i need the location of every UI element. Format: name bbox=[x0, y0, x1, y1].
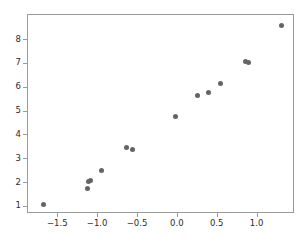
x-tick-mark bbox=[257, 213, 258, 217]
scatter-point bbox=[130, 147, 135, 152]
plot-data-area bbox=[28, 15, 293, 212]
x-tick-mark bbox=[97, 213, 98, 217]
x-tick-label: 0.0 bbox=[157, 219, 197, 228]
y-tick-label: 1 bbox=[0, 201, 21, 210]
scatter-point bbox=[206, 90, 211, 95]
y-tick-label: 6 bbox=[0, 82, 21, 91]
y-tick-label: 7 bbox=[0, 58, 21, 67]
x-tick-label: −0.5 bbox=[117, 219, 157, 228]
y-tick-label-box: 4 bbox=[0, 130, 21, 139]
scatter-point bbox=[218, 81, 223, 86]
plot-axes-frame bbox=[27, 14, 294, 213]
y-tick-label-box: 5 bbox=[0, 106, 21, 115]
scatter-point bbox=[124, 145, 129, 150]
x-tick-label: −1.5 bbox=[37, 219, 77, 228]
y-tick-label: 4 bbox=[0, 130, 21, 139]
scatter-point bbox=[195, 93, 200, 98]
y-tick-label: 3 bbox=[0, 154, 21, 163]
x-tick-label: −1.0 bbox=[77, 219, 117, 228]
y-tick-label-box: 3 bbox=[0, 154, 21, 163]
scatter-point bbox=[279, 23, 284, 28]
scatter-point bbox=[41, 202, 46, 207]
y-tick-label-box: 8 bbox=[0, 35, 21, 44]
scatter-point bbox=[85, 186, 90, 191]
scatter-point bbox=[99, 168, 104, 173]
scatter-point bbox=[173, 114, 178, 119]
y-tick-label: 5 bbox=[0, 106, 21, 115]
x-tick-mark bbox=[57, 213, 58, 217]
x-tick-mark bbox=[217, 213, 218, 217]
x-tick-mark bbox=[177, 213, 178, 217]
scatter-point bbox=[246, 60, 251, 65]
y-tick-label: 8 bbox=[0, 35, 21, 44]
scatter-plot-figure: 12345678 −1.5−1.0−0.50.00.51.0 bbox=[0, 0, 306, 238]
y-tick-label: 2 bbox=[0, 178, 21, 187]
x-tick-label: 0.5 bbox=[197, 219, 237, 228]
y-tick-label-box: 1 bbox=[0, 201, 21, 210]
x-tick-mark bbox=[137, 213, 138, 217]
y-tick-label-box: 6 bbox=[0, 82, 21, 91]
x-tick-label: 1.0 bbox=[237, 219, 277, 228]
y-tick-label-box: 7 bbox=[0, 58, 21, 67]
scatter-point bbox=[88, 178, 93, 183]
y-tick-label-box: 2 bbox=[0, 178, 21, 187]
